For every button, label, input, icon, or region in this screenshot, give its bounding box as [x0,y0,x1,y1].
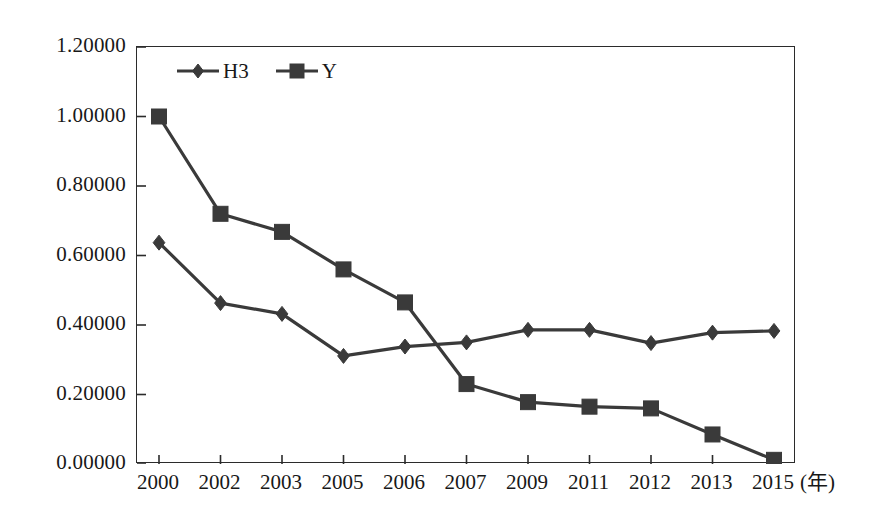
series-line-y [159,117,774,460]
x-tick-label: 2007 [445,470,487,494]
data-point-marker-y [152,109,167,124]
data-point-marker-y [705,427,720,442]
x-tick-label: 2009 [506,470,548,494]
data-point-marker-y [398,295,413,310]
data-point-marker-h3 [276,306,288,321]
data-point-marker-h3 [522,322,534,337]
data-point-marker-h3 [707,325,719,340]
y-tick-label: 0.60000 [6,244,126,265]
data-point-marker-h3 [584,322,596,337]
data-point-marker-h3 [645,336,657,351]
legend-marker-diamond-icon [176,62,220,80]
data-point-marker-h3 [461,335,473,350]
plot-area [136,46,795,463]
y-tick-label: 0.00000 [6,452,126,473]
y-tick-label: 0.40000 [6,313,126,334]
x-tick-label: 2015 [752,470,794,494]
legend-entry-y: Y [275,58,337,84]
x-axis-unit-label: (年) [800,470,835,494]
line-chart: 0.000000.200000.400000.600000.800001.000… [0,0,886,524]
y-axis-tick-labels: 0.000000.200000.400000.600000.800001.000… [0,0,126,524]
legend-label: H3 [223,61,249,82]
x-tick-label: 2006 [383,470,425,494]
chart-legend: H3Y [176,58,337,84]
legend-marker-square-icon [275,62,319,80]
series-canvas [137,47,796,464]
x-tick-label: 2002 [199,470,241,494]
legend-label: Y [322,61,337,82]
data-point-marker-y [336,262,351,277]
y-tick-label: 1.00000 [6,105,126,126]
data-point-marker-h3 [768,323,780,338]
data-point-marker-y [582,399,597,414]
y-tick-label: 0.80000 [6,174,126,195]
x-tick-label: 2013 [691,470,733,494]
data-point-marker-y [644,401,659,416]
x-tick-label: 2005 [322,470,364,494]
x-tick-label: 2003 [260,470,302,494]
legend-entry-h3: H3 [176,58,249,84]
y-tick-label: 1.20000 [6,35,126,56]
x-tick-label: 2000 [137,470,179,494]
data-point-marker-y [275,224,290,239]
data-point-marker-h3 [399,339,411,354]
data-point-marker-h3 [338,348,350,363]
y-tick-label: 0.20000 [6,383,126,404]
x-axis-tick-labels: 2000200220032005200620072009201120122013… [136,470,795,506]
data-point-marker-y [459,377,474,392]
data-point-marker-y [213,206,228,221]
data-point-marker-y [767,452,782,464]
x-tick-label: 2012 [629,470,671,494]
data-point-marker-y [521,395,536,410]
x-tick-label: 2011 [568,470,609,494]
